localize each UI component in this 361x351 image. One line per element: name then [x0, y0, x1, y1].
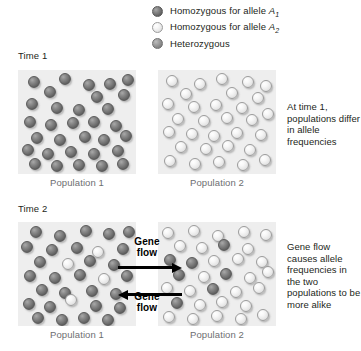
individual-light	[262, 108, 274, 120]
individual-light	[62, 258, 74, 270]
individual-light	[260, 229, 272, 241]
individual-light	[235, 313, 247, 325]
individual-light	[210, 99, 222, 111]
individual-dark	[207, 283, 219, 295]
individual-light	[226, 87, 238, 99]
individual-dark	[34, 256, 46, 268]
individual-light	[187, 313, 199, 325]
legend-item-homozygous-a1: Homozygous for allele A1	[152, 4, 357, 19]
individual-dark	[59, 73, 71, 85]
individual-light	[172, 113, 184, 125]
legend-item-heterozygous: Heterozygous	[152, 36, 357, 51]
individual-dark	[103, 228, 115, 240]
individual-light	[259, 154, 271, 166]
individual-light	[180, 88, 192, 100]
individual-dark	[79, 131, 91, 143]
individual-dark	[21, 241, 33, 253]
individual-light	[200, 143, 212, 155]
individual-dark	[91, 91, 103, 103]
time1-population1-caption: Population 1	[18, 177, 136, 188]
individual-dark	[83, 79, 95, 91]
individual-dark	[36, 284, 48, 296]
gene-flow-arrow-bottom-group: Geneflow	[120, 292, 174, 313]
individual-dark	[71, 242, 83, 254]
individual-dark	[218, 239, 230, 251]
individual-light	[222, 140, 234, 152]
individual-light	[163, 126, 175, 138]
legend-item-label: Heterozygous	[170, 38, 230, 49]
individual-dark	[88, 116, 100, 128]
individual-light	[232, 253, 244, 265]
individual-light	[198, 271, 210, 283]
individual-dark	[102, 103, 114, 115]
individual-light	[252, 92, 264, 104]
individual-light	[175, 141, 187, 153]
individual-dark	[51, 160, 63, 172]
legend: Homozygous for allele A1 Homozygous for …	[152, 4, 357, 52]
time2-population1-caption: Population 1	[18, 329, 136, 340]
individual-dark	[56, 314, 68, 326]
individual-light	[194, 78, 206, 90]
individual-dark	[80, 225, 92, 237]
individual-light	[237, 159, 249, 171]
individual-dark	[23, 298, 35, 310]
individual-light	[98, 273, 110, 285]
individual-dark	[98, 134, 110, 146]
individual-dark	[31, 132, 43, 144]
individual-light	[242, 76, 254, 88]
individual-dark	[220, 268, 232, 280]
hetero-sphere-icon	[152, 38, 163, 49]
time2-side-caption: Gene flow causes allele frequencies in t…	[287, 241, 361, 310]
time2-label: Time 2	[18, 203, 47, 214]
individual-light	[244, 144, 256, 156]
individual-dark	[65, 146, 77, 158]
legend-item-label: Homozygous for allele A2	[170, 21, 279, 34]
time2-population1-panel	[18, 222, 136, 326]
individual-dark	[22, 144, 34, 156]
individual-dark	[67, 117, 79, 129]
individual-dark	[32, 312, 44, 324]
individual-light	[255, 129, 267, 141]
gene-flow-label-bottom: Geneflow	[120, 292, 174, 313]
individual-dark	[96, 160, 108, 172]
individual-dark	[122, 74, 134, 86]
individual-dark	[78, 312, 90, 324]
individual-light	[208, 130, 220, 142]
individual-dark	[29, 158, 41, 170]
individual-dark	[117, 158, 129, 170]
arrow-shaft	[118, 266, 173, 269]
individual-light	[211, 310, 223, 322]
individual-light	[174, 240, 186, 252]
individual-dark	[46, 244, 58, 256]
individual-dark	[51, 102, 63, 114]
individual-light	[213, 156, 225, 168]
individual-light	[164, 155, 176, 167]
individual-dark	[90, 300, 102, 312]
individual-dark	[88, 148, 100, 160]
individual-dark	[49, 272, 61, 284]
legend-item-label: Homozygous for allele A1	[170, 5, 279, 18]
gene-flow-label-top: Geneflow	[120, 237, 174, 258]
time2-population2-panel	[158, 222, 276, 326]
individual-light	[260, 80, 272, 92]
individual-dark	[84, 255, 96, 267]
individual-light	[189, 158, 201, 170]
individual-dark	[104, 78, 116, 90]
individual-dark	[74, 269, 86, 281]
time1-side-caption: At time 1, populations differ in allele …	[287, 101, 361, 147]
individual-dark	[42, 148, 54, 160]
individual-light	[188, 225, 200, 237]
individual-dark	[86, 285, 98, 297]
individual-light	[198, 115, 210, 127]
individual-dark	[54, 230, 66, 242]
individual-dark	[45, 119, 57, 131]
time1-population1-panel	[18, 70, 136, 174]
individual-light	[221, 112, 233, 124]
individual-light	[194, 299, 206, 311]
time1-population2-panel	[158, 70, 276, 174]
individual-dark	[54, 134, 66, 146]
individual-dark	[110, 120, 122, 132]
individual-light	[253, 282, 265, 294]
individual-light	[162, 98, 174, 110]
gene-flow-arrow-right	[118, 262, 182, 273]
